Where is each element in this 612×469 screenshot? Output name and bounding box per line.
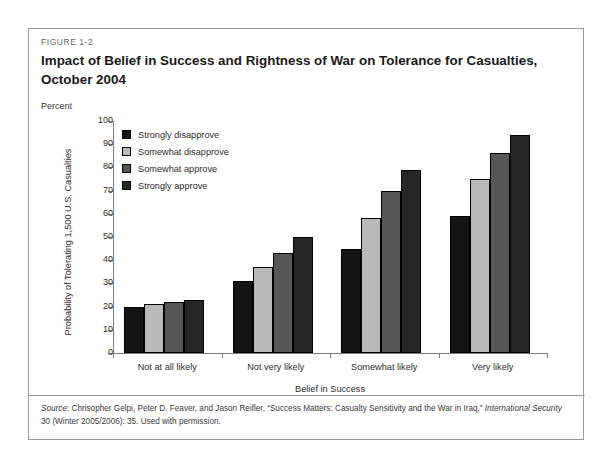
legend-item-label: Strongly approve <box>138 181 207 191</box>
bar <box>164 302 184 353</box>
source-note: Source: Chrisopher Gelpi, Peter D. Feave… <box>41 403 571 428</box>
source-text-part2: 30 (Winter 2005/2006): 35. Used with per… <box>41 417 221 426</box>
y-axis-tick-label: 50 <box>87 232 113 241</box>
y-axis-tick-label-wrap: 80 <box>73 167 113 168</box>
y-axis-tick-label: 10 <box>87 325 113 334</box>
bar <box>293 237 313 353</box>
y-axis-tick-label: 20 <box>87 302 113 311</box>
bar <box>401 170 421 353</box>
x-axis-category-label: Very likely <box>439 362 548 372</box>
bar <box>361 218 381 353</box>
y-axis-tick-label: 80 <box>87 162 113 171</box>
y-axis-tick-label: 60 <box>87 209 113 218</box>
bar <box>273 253 293 353</box>
bar <box>184 300 204 353</box>
source-divider <box>29 395 585 396</box>
y-axis-tick-label: 90 <box>87 139 113 148</box>
legend-item: Strongly approve <box>122 178 229 193</box>
source-label: Source <box>41 404 67 413</box>
source-text-part1: : Chrisopher Gelpi, Peter D. Feaver, and… <box>67 404 485 413</box>
x-axis-tick <box>113 353 114 358</box>
y-axis-tick-label-wrap: 70 <box>73 191 113 192</box>
legend-swatch-icon <box>122 130 131 139</box>
bar <box>490 153 510 353</box>
legend-swatch-icon <box>122 147 131 156</box>
source-journal-name: International Security <box>485 404 562 413</box>
y-axis-tick-label-wrap: 30 <box>73 283 113 284</box>
x-axis-tick <box>330 353 331 358</box>
x-axis-category-label: Not at all likely <box>113 362 222 372</box>
x-axis-category-label: Not very likely <box>222 362 331 372</box>
y-axis-tick-label-wrap: 100 <box>73 121 113 122</box>
y-axis-tick-label-wrap: 0 <box>73 353 113 354</box>
x-axis-tick <box>547 353 548 358</box>
bar <box>341 249 361 353</box>
y-axis-title: Probability of Tolerating 1,500 U.S. Cas… <box>63 142 73 342</box>
bar <box>144 304 164 353</box>
chart-legend: Strongly disapproveSomewhat disapproveSo… <box>122 127 229 195</box>
y-axis-tick-label: 70 <box>87 186 113 195</box>
y-axis-tick-label-wrap: 90 <box>73 144 113 145</box>
y-axis-tick-label: 0 <box>87 348 113 357</box>
bar <box>470 179 490 353</box>
chart-plot-area: 0102030405060708090100 Probability of To… <box>29 29 585 441</box>
y-axis-tick-label-wrap: 60 <box>73 214 113 215</box>
bar <box>510 135 530 353</box>
bar <box>450 216 470 353</box>
bar <box>381 191 401 353</box>
bar <box>124 307 144 353</box>
y-axis-tick-label-wrap: 10 <box>73 330 113 331</box>
y-axis-tick-label: 100 <box>87 116 113 125</box>
y-axis-line <box>113 121 114 353</box>
x-axis-title: Belief in Success <box>113 384 547 394</box>
y-axis-tick-label-wrap: 50 <box>73 237 113 238</box>
figure-frame: FIGURE 1-2 Impact of Belief in Success a… <box>28 28 584 440</box>
legend-item: Somewhat approve <box>122 161 229 176</box>
legend-item-label: Somewhat approve <box>138 164 217 174</box>
bar <box>253 267 273 353</box>
legend-swatch-icon <box>122 181 131 190</box>
y-axis-tick-label: 40 <box>87 255 113 264</box>
y-axis-tick-label-wrap: 20 <box>73 307 113 308</box>
legend-item: Strongly disapprove <box>122 127 229 142</box>
legend-item-label: Strongly disapprove <box>138 130 219 140</box>
x-axis-tick <box>439 353 440 358</box>
legend-item-label: Somewhat disapprove <box>138 147 229 157</box>
legend-swatch-icon <box>122 164 131 173</box>
x-axis-category-label: Somewhat likely <box>330 362 439 372</box>
bar <box>233 281 253 353</box>
y-axis-tick-label-wrap: 40 <box>73 260 113 261</box>
x-axis-tick <box>222 353 223 358</box>
y-axis-tick-label: 30 <box>87 278 113 287</box>
legend-item: Somewhat disapprove <box>122 144 229 159</box>
